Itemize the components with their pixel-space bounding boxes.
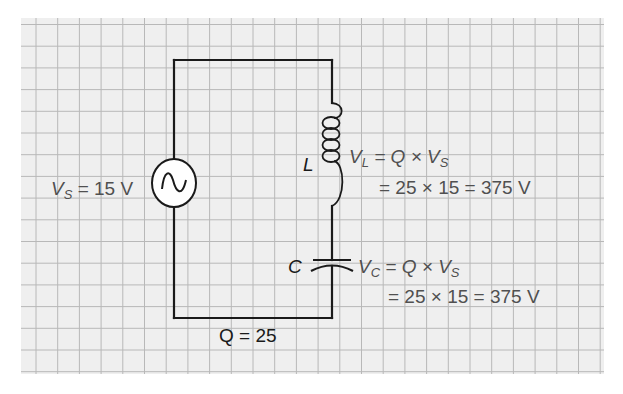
capacitor-voltage-result: = 25 × 15 = 375 V	[388, 286, 540, 307]
inductor-voltage-result: = 25 × 15 = 375 V	[379, 177, 531, 198]
inductor-symbol-label: L	[303, 154, 314, 175]
ac-source-icon	[152, 159, 196, 207]
source-voltage-label: VS = 15 V	[51, 178, 133, 202]
capacitor-symbol-label: C	[288, 256, 302, 277]
quality-factor-label: Q = 25	[219, 325, 277, 346]
series-rlc-resonance-diagram: VS = 15 V L VL = Q × VS = 25 × 15 = 375 …	[0, 0, 623, 394]
